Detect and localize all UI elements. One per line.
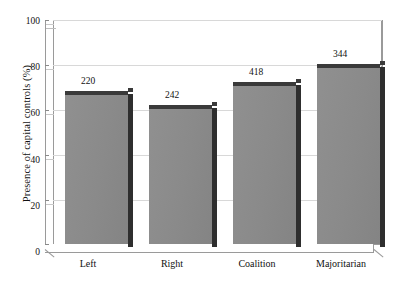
bar-top-cap-coalition [233,82,296,86]
bar-left[interactable] [65,91,128,244]
bar-top-cap-majoritarian [317,64,380,68]
y-tick-label-60: 60 [14,108,40,118]
bar-shadow-cap-right [212,102,217,106]
bar-group-majoritarian[interactable] [317,64,380,244]
x-category-label-majoritarian: Majoritarian [300,258,382,269]
y-tick-label-80: 80 [14,62,40,72]
bar-value-label-left: 220 [58,76,118,86]
bar-group-left[interactable] [65,91,128,244]
x-category-label-coalition: Coalition [222,258,292,269]
bar-shadow-coalition [296,85,301,247]
bar-value-label-coalition: 418 [226,67,286,77]
bar-group-coalition[interactable] [233,82,296,244]
bar-value-label-right: 242 [142,90,202,100]
y-tick-label-40: 40 [14,155,40,165]
bar-group-right[interactable] [149,105,212,244]
bar-top-cap-left [65,91,128,95]
bar-value-label-majoritarian: 344 [310,49,370,59]
bar-top-cap-right [149,105,212,109]
bar-shadow-cap-coalition [296,79,301,83]
bar-chart-figure: Presence of capital controls (%) 0 20 40… [0,0,395,283]
y-tick-label-100: 100 [14,16,40,26]
y-tick-label-0: 0 [14,247,40,257]
bar-right[interactable] [149,105,212,244]
bar-shadow-cap-left [128,88,133,92]
bar-shadow-left [128,94,133,247]
x-category-label-left: Left [58,258,118,269]
y-tick-label-20: 20 [14,201,40,211]
y-axis-tick-labels: 0 20 40 60 80 100 [14,0,40,283]
bar-shadow-majoritarian [380,67,385,247]
bar-majoritarian[interactable] [317,64,380,244]
bar-shadow-cap-majoritarian [380,61,385,65]
bar-coalition[interactable] [233,82,296,244]
bar-shadow-right [212,108,217,247]
x-category-label-right: Right [142,258,202,269]
